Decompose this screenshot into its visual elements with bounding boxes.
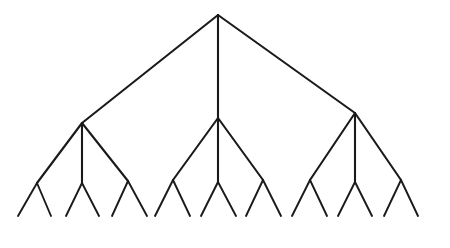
tree-diagram-figure (0, 0, 450, 248)
tree-diagram-canvas (0, 0, 450, 248)
